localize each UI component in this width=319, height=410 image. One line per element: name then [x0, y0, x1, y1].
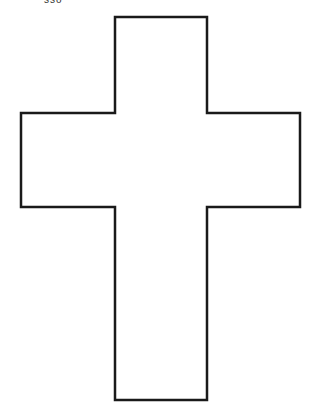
cross-shape	[21, 17, 300, 400]
cross-outline-icon	[0, 0, 319, 410]
